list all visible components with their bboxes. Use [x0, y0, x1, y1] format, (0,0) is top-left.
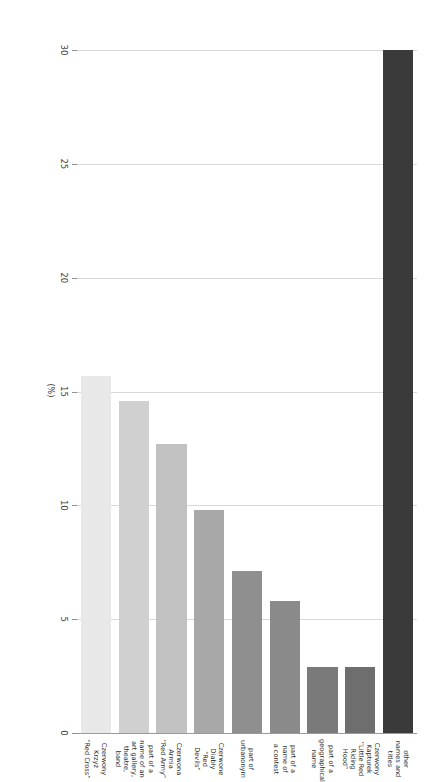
gridline-15: [77, 392, 417, 393]
x-tick-0: [72, 733, 77, 734]
gridline-0: [77, 733, 417, 734]
category-label: Czerwone Diabły “Red Devils”: [193, 739, 226, 779]
gridline-20: [77, 278, 417, 279]
bar: [232, 571, 262, 733]
bar: [156, 444, 186, 733]
x-tick-30: [72, 50, 77, 51]
gridline-25: [77, 164, 417, 165]
x-axis-title: (%): [46, 384, 55, 398]
category-label: Czerwony Krzyż “Red Cross”: [84, 739, 109, 779]
category-label: other names and titles: [386, 739, 411, 779]
x-tick-10: [72, 505, 77, 506]
category-label: part of a geographical name: [310, 739, 335, 779]
x-tick-label-15: 15: [59, 386, 69, 397]
x-tick-label-25: 25: [59, 158, 69, 169]
x-tick-label-0: 0: [59, 730, 69, 735]
x-tick-label-30: 30: [59, 45, 69, 56]
x-tick-25: [72, 164, 77, 165]
bar: [194, 510, 224, 733]
category-label: part of a name of a contest: [272, 739, 297, 779]
bar: [307, 667, 337, 733]
x-tick-label-10: 10: [59, 500, 69, 511]
x-tick-label-5: 5: [59, 616, 69, 621]
bar: [383, 50, 413, 733]
x-tick-15: [72, 392, 77, 393]
x-tick-20: [72, 278, 77, 279]
bar: [270, 601, 300, 733]
category-label: part of urbanonym: [239, 739, 255, 779]
bar: [81, 376, 111, 733]
bar: [119, 401, 149, 733]
category-label: Czerwona Armia “Red Army”: [159, 739, 184, 779]
plot-area: 051015202530Czerwony Krzyż “Red Cross”pa…: [77, 50, 417, 733]
category-label: Czerwony Kapturek “Little Red Riding Hoo…: [340, 739, 381, 779]
bar: [345, 667, 375, 733]
x-tick-5: [72, 619, 77, 620]
category-label: part of a name of an art gallery, theatr…: [113, 739, 154, 779]
x-tick-label-20: 20: [59, 272, 69, 283]
gridline-30: [77, 50, 417, 51]
